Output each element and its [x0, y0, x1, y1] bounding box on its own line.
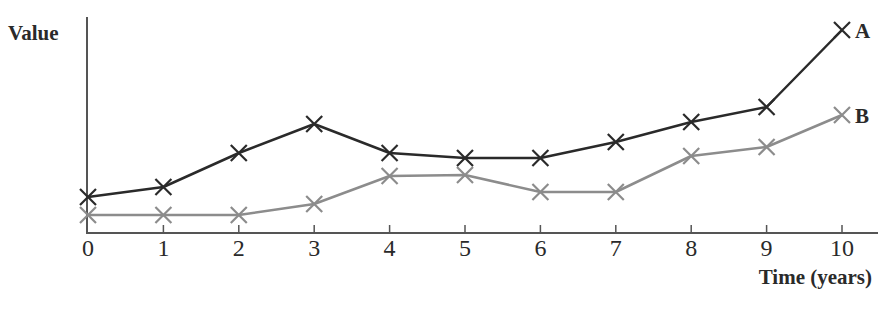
x-tick-label: 1: [157, 235, 169, 261]
x-ticks: [163, 225, 842, 233]
x-tick-label: 4: [384, 235, 396, 261]
x-tick-label: 5: [459, 235, 471, 261]
x-marker-icon: [834, 22, 850, 38]
x-tick-label: 3: [308, 235, 320, 261]
series-line: [88, 115, 842, 215]
x-axis-label: Time (years): [759, 265, 872, 289]
series-label-b: B: [855, 104, 869, 128]
x-tick-label: 8: [685, 235, 697, 261]
x-tick-label: 7: [610, 235, 622, 261]
series-line: [88, 30, 842, 197]
x-axis: 012345678910: [82, 225, 878, 261]
x-tick-label: 2: [233, 235, 245, 261]
x-tick-labels: 012345678910: [82, 235, 854, 261]
x-tick-label: 10: [830, 235, 854, 261]
series-layer: BA: [80, 19, 871, 223]
x-marker-icon: [834, 107, 850, 123]
x-tick-label: 0: [82, 235, 94, 261]
x-tick-label: 6: [534, 235, 546, 261]
x-marker-icon: [231, 145, 247, 161]
line-chart: 012345678910 Value Time (years) BA: [0, 0, 890, 310]
y-axis-label: Value: [8, 21, 59, 45]
series-b: B: [80, 104, 869, 223]
x-marker-icon: [306, 116, 322, 132]
x-tick-label: 9: [761, 235, 773, 261]
series-label-a: A: [855, 19, 871, 43]
